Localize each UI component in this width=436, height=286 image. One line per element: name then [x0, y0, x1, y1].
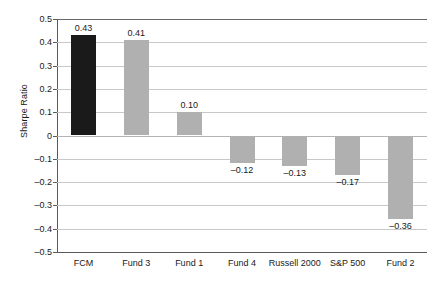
gridline: [57, 182, 427, 183]
bar-value-label: 0.10: [166, 100, 212, 110]
y-axis-tick-label: 0.1: [6, 108, 52, 117]
y-axis-tick-label: –0.2: [6, 178, 52, 187]
gridline: [57, 19, 427, 20]
y-axis-tick-label: 0.4: [6, 38, 52, 47]
y-axis-tick-label: –0.3: [6, 201, 52, 210]
bar-value-label: 0.43: [60, 23, 106, 33]
bar: [388, 136, 413, 220]
gridline: [57, 205, 427, 206]
bar: [230, 136, 255, 164]
bar: [335, 136, 360, 176]
y-axis-tick-label: 0: [6, 132, 52, 141]
bar: [71, 35, 96, 135]
y-axis-tick-label: 0.2: [6, 85, 52, 94]
x-axis-category-label: Fund 2: [364, 258, 436, 268]
gridline: [57, 112, 427, 113]
gridline: [57, 229, 427, 230]
bar-value-label: –0.17: [325, 177, 371, 187]
x-axis-line: [57, 252, 427, 253]
y-axis-tick-label: 0.3: [6, 62, 52, 71]
y-axis-tick-label: –0.5: [6, 248, 52, 257]
y-axis-tick-label: –0.1: [6, 155, 52, 164]
bar-value-label: –0.12: [219, 165, 265, 175]
bar-value-label: –0.36: [378, 221, 424, 231]
y-axis-tick-labels: 0.50.40.30.20.10–0.1–0.2–0.3–0.4–0.5: [0, 19, 52, 252]
bar-chart: Sharpe Ratio 0.50.40.30.20.10–0.1–0.2–0.…: [0, 0, 436, 286]
bar: [282, 136, 307, 166]
bar-value-label: 0.41: [113, 28, 159, 38]
bar: [177, 112, 202, 135]
bar-value-label: –0.13: [272, 168, 318, 178]
bar: [124, 40, 149, 136]
plot-area: [57, 19, 427, 252]
y-axis-tick-label: 0.5: [6, 15, 52, 24]
gridline: [57, 66, 427, 67]
gridline: [57, 89, 427, 90]
gridline: [57, 42, 427, 43]
y-axis-tick-label: –0.4: [6, 225, 52, 234]
